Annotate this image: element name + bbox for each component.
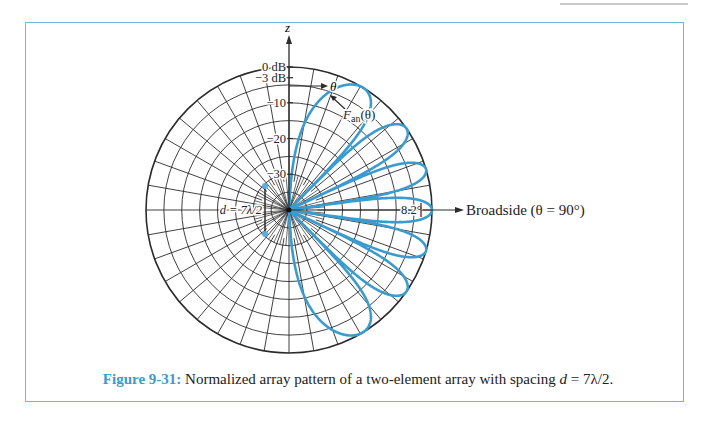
array-element-top <box>262 183 268 189</box>
theta-arrowhead <box>321 83 328 89</box>
array-element-bottom <box>262 231 268 237</box>
z-axis-label: z <box>284 20 290 35</box>
origin-point <box>287 208 292 213</box>
ring-label: −30 <box>266 167 286 181</box>
polar-pattern-plot: z0 dB−3 dB−10−20−30Broadside (θ = 90°)8.… <box>0 0 716 424</box>
caption-var: d <box>559 371 567 387</box>
caption-text: Normalized array pattern of a two-elemen… <box>185 371 559 387</box>
figure-caption: Figure 9-31: Normalized array pattern of… <box>0 371 716 388</box>
ring-label: −3 dB <box>255 71 286 85</box>
broadside-label: Broadside (θ = 90°) <box>466 202 585 219</box>
theta-label: θ <box>330 79 337 94</box>
ring-label: −20 <box>266 132 286 146</box>
caption-math: = 7λ/2. <box>567 371 613 387</box>
grid-spoke <box>155 220 263 259</box>
grid-spoke <box>155 161 263 200</box>
beamwidth-label: 8.2° <box>401 203 422 217</box>
pattern-label: Fan(θ) <box>342 107 375 124</box>
figure-label: Figure 9-31: <box>103 371 181 387</box>
spacing-label: d = 7λ/2 <box>220 203 262 217</box>
z-axis-arrowhead <box>286 35 292 44</box>
ring-label: −10 <box>266 96 286 110</box>
broadside-arrowhead <box>455 207 464 213</box>
